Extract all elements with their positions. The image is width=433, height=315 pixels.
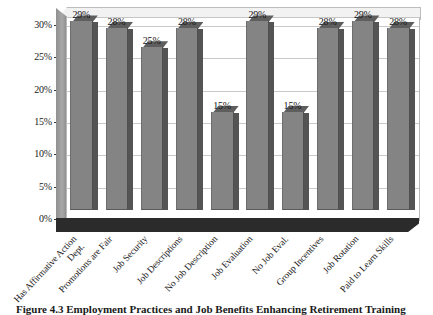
- bar-9[interactable]: [352, 22, 372, 219]
- y-tick-label: 15%: [10, 117, 52, 127]
- bar-value-label: 28%: [108, 17, 126, 27]
- bar-3[interactable]: [141, 48, 161, 219]
- bar-front-face: [141, 47, 163, 210]
- bar-5[interactable]: [211, 113, 231, 219]
- y-tick-label: 10%: [10, 149, 52, 159]
- bar-front-face: [282, 112, 304, 210]
- bar-front-face: [246, 21, 268, 210]
- figure-container: 0%5%10%15%20%25%30% 29%28%25%28%15%29%15…: [0, 0, 433, 315]
- bar-value-label: 15%: [213, 101, 231, 111]
- bar-value-label: 28%: [178, 17, 196, 27]
- chart-floor: [56, 218, 419, 232]
- bar-7[interactable]: [282, 113, 302, 219]
- bar-chart: 0%5%10%15%20%25%30% 29%28%25%28%15%29%15…: [0, 0, 433, 248]
- bar-value-label: 28%: [319, 17, 337, 27]
- bar-value-label: 15%: [284, 101, 302, 111]
- x-axis-labels: Has Affirmative ActionDept.Promotions ar…: [0, 232, 433, 307]
- bar-value-label: 29%: [248, 10, 266, 20]
- y-tick-label: 5%: [10, 182, 52, 192]
- y-axis-labels: 0%5%10%15%20%25%30%: [10, 0, 52, 248]
- y-tick-label: 25%: [10, 52, 52, 62]
- bar-front-face: [211, 112, 233, 210]
- bar-value-label: 29%: [354, 10, 372, 20]
- bar-1[interactable]: [70, 22, 90, 219]
- bar-front-face: [176, 28, 198, 210]
- figure-caption: Figure 4.3 Employment Practices and Job …: [16, 303, 426, 315]
- bar-front-face: [70, 21, 92, 210]
- bar-front-face: [387, 28, 409, 210]
- bar-10[interactable]: [387, 29, 407, 219]
- y-tick-label: 20%: [10, 85, 52, 95]
- bar-value-label: 28%: [389, 17, 407, 27]
- bars-layer: 29%28%25%28%15%29%15%28%29%28%: [66, 17, 418, 219]
- bar-front-face: [106, 28, 128, 210]
- bar-front-face: [352, 21, 374, 210]
- bar-value-label: 25%: [143, 36, 161, 46]
- x-axis-label-line: Has Affirmative Action: [12, 234, 79, 305]
- bar-6[interactable]: [246, 22, 266, 219]
- bar-value-label: 29%: [72, 10, 90, 20]
- bar-2[interactable]: [106, 29, 126, 219]
- bar-8[interactable]: [317, 29, 337, 219]
- bar-front-face: [317, 28, 339, 210]
- bar-4[interactable]: [176, 29, 196, 219]
- y-tick-label: 30%: [10, 20, 52, 30]
- y-tick-label: 0%: [10, 214, 52, 224]
